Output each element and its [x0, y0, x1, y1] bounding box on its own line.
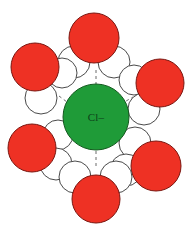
chloride-ion: Cl–: [63, 84, 129, 150]
oxygen-atom-top: [69, 13, 119, 63]
oxygen-atom-upper-left: [11, 43, 59, 91]
molecule-diagram-canvas: Cl–: [0, 0, 191, 231]
oxygen-atom-lower-right: [131, 141, 181, 191]
oxygen-atom-upper-right: [136, 59, 184, 107]
oxygen-atom-bottom: [72, 175, 120, 223]
chloride-ion-label: Cl–: [88, 111, 105, 123]
oxygen-atom-lower-left: [8, 124, 56, 172]
hydrated-chloride-figure: Cl–: [0, 0, 191, 231]
